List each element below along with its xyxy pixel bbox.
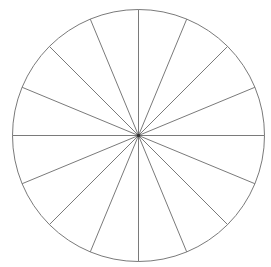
spoke-line	[139, 46, 228, 135]
spoke-line	[139, 136, 228, 225]
center-point	[137, 134, 141, 138]
segmented-circle-diagram	[0, 0, 271, 267]
spoke-line	[49, 136, 138, 225]
spoke-line	[49, 46, 138, 135]
